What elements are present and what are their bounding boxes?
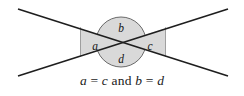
caption-area: a = c and b = d — [0, 66, 244, 96]
caption-var-d: d — [157, 73, 164, 88]
caption-equals-2: = — [142, 73, 157, 88]
caption-conjunction: and — [108, 73, 135, 88]
caption-var-a: a — [80, 73, 87, 88]
angle-label-c: c — [147, 40, 152, 52]
caption: a = c and b = d — [80, 73, 164, 89]
angle-label-b: b — [118, 22, 124, 34]
vertical-angles-figure: b a c d a = c and b = d — [0, 0, 244, 96]
angle-label-a: a — [92, 40, 98, 52]
caption-equals-1: = — [87, 73, 102, 88]
angle-label-d: d — [118, 53, 124, 65]
